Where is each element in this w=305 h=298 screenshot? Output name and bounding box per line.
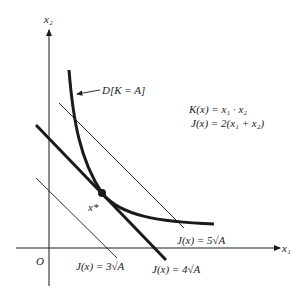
optimum-point — [98, 189, 106, 197]
level-line-3 — [36, 178, 117, 258]
origin-label: O — [36, 256, 44, 267]
optimum-label: x* — [88, 202, 98, 213]
level-label-5: J(x) = 5√A — [177, 235, 225, 246]
equation-k: K(x) = x₁ · x₂ — [189, 104, 247, 115]
equation-j: J(x) = 2(x₁ + x₂) — [191, 118, 264, 129]
curve-label: D[K = A] — [102, 85, 145, 96]
diagram-graphics — [0, 0, 305, 298]
curve-pointer — [77, 90, 100, 94]
diagram: x₂ x₁ O D[K = A] K(x) = x₁ · x₂ J(x) = 2… — [0, 0, 305, 298]
level-label-3: J(x) = 3√A — [76, 261, 124, 272]
y-axis-label: x₂ — [44, 14, 53, 25]
level-label-4: J(x) = 4√A — [152, 264, 200, 275]
x-axis-label: x₁ — [282, 243, 291, 254]
